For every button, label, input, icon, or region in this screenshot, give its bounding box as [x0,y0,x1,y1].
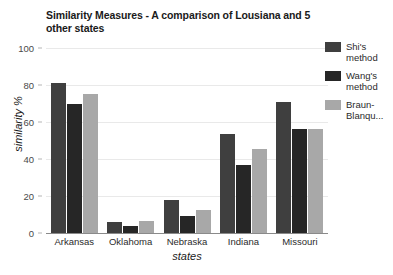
bar [252,149,267,233]
bar-groups [46,48,328,233]
bar [139,221,154,233]
bar-group [46,48,102,233]
bar-group [215,48,271,233]
bar-group [102,48,158,233]
legend-swatch-icon [325,100,341,110]
y-tick-label: 100 [18,43,34,54]
y-tick-mark [38,122,42,123]
x-tick-label: Oklahoma [102,236,158,247]
bar [196,210,211,233]
bar [83,94,98,233]
legend-label: Braun-Blanqu... [346,99,391,121]
legend-swatch-icon [325,42,341,52]
legend-swatch-icon [325,71,341,81]
bar [67,104,82,234]
chart-legend: Shi's methodWang's methodBraun-Blanqu... [325,41,391,128]
legend-item[interactable]: Shi's method [325,41,391,63]
y-tick-mark [38,233,42,234]
y-tick-label: 80 [23,80,34,91]
y-axis-title: similarity % [12,76,24,172]
y-tick-label: 40 [23,154,34,165]
legend-item[interactable]: Braun-Blanqu... [325,99,391,121]
x-tick-label: Nebraska [159,236,215,247]
plot-area [46,48,328,233]
legend-label: Shi's method [346,41,391,63]
bar [51,83,66,233]
bar [308,129,323,233]
x-tick-label: Indiana [215,236,271,247]
y-tick-mark [38,48,42,49]
legend-item[interactable]: Wang's method [325,70,391,92]
y-tick-mark [38,85,42,86]
y-tick-label: 0 [29,228,34,239]
legend-label: Wang's method [346,70,391,92]
chart-title: Similarity Measures - A comparison of Lo… [46,9,336,35]
bar [236,165,251,233]
bar [107,222,122,233]
x-tick-label: Missouri [272,236,328,247]
bar [220,134,235,233]
y-tick-mark [38,196,42,197]
bar-group [159,48,215,233]
bar-chart: Similarity Measures - A comparison of Lo… [0,0,393,275]
x-tick-label: Arkansas [46,236,102,247]
bar [123,226,138,233]
x-axis-labels: ArkansasOklahomaNebraskaIndianaMissouri [46,236,328,247]
bar-group [272,48,328,233]
y-tick-mark [38,159,42,160]
y-tick-label: 20 [23,191,34,202]
bar [164,200,179,233]
bar [276,102,291,233]
bar [180,216,195,233]
bar [292,129,307,233]
x-axis-title: states [46,250,328,262]
y-tick-label: 60 [23,117,34,128]
